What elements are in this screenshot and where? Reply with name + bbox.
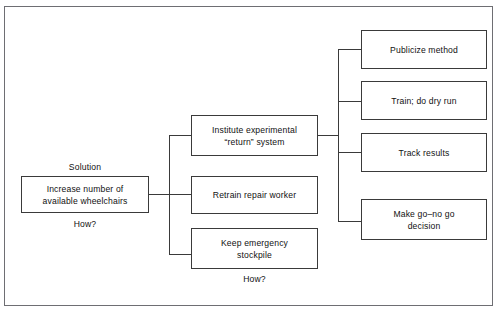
box-make-go-no-go-decision-line1: Make go–no go	[393, 208, 454, 220]
box-keep-emergency-stockpile-line1: Keep emergency	[221, 237, 288, 249]
caption-solution: Solution	[21, 162, 149, 173]
box-track-results-line1: Track results	[399, 147, 450, 159]
caption-how-left: How?	[21, 219, 149, 230]
connector-middle-stub-2	[169, 194, 191, 195]
connector-middle-stub-3	[169, 254, 191, 255]
box-track-results[interactable]: Track results	[361, 133, 487, 172]
box-make-go-no-go-decision[interactable]: Make go–no go decision	[361, 199, 487, 240]
connector-right-stub-2	[338, 101, 361, 102]
box-retrain-repair-worker[interactable]: Retrain repair worker	[191, 176, 318, 214]
box-retrain-repair-worker-line1: Retrain repair worker	[213, 189, 296, 201]
connector-right-stub-3	[338, 152, 361, 153]
diagram-frame: Solution Increase number of available wh…	[4, 6, 493, 306]
box-institute-return-system[interactable]: Institute experimental “return” system	[191, 115, 318, 156]
box-publicize-method-line1: Publicize method	[390, 44, 458, 56]
box-increase-wheelchairs-line1: Increase number of	[43, 183, 128, 195]
box-increase-wheelchairs-line2: available wheelchairs	[43, 195, 128, 207]
box-increase-wheelchairs[interactable]: Increase number of available wheelchairs	[21, 176, 149, 213]
box-train-do-dry-run[interactable]: Train; do dry run	[361, 81, 487, 120]
box-institute-return-system-line2: “return” system	[212, 136, 297, 148]
connector-right-stub-4	[338, 221, 361, 222]
connector-institute-to-right-bus	[317, 135, 338, 136]
connector-right-vertical-bus	[338, 49, 339, 221]
connector-right-stub-1	[338, 49, 361, 50]
box-publicize-method[interactable]: Publicize method	[361, 30, 487, 69]
box-keep-emergency-stockpile-line2: stockpile	[221, 249, 288, 261]
box-keep-emergency-stockpile[interactable]: Keep emergency stockpile	[191, 228, 318, 269]
connector-middle-stub-1	[169, 135, 191, 136]
box-train-do-dry-run-line1: Train; do dry run	[391, 95, 456, 107]
caption-how-middle: How?	[191, 274, 318, 285]
box-institute-return-system-line1: Institute experimental	[212, 124, 297, 136]
diagram-page: Solution Increase number of available wh…	[0, 0, 501, 315]
box-make-go-no-go-decision-line2: decision	[393, 220, 454, 232]
